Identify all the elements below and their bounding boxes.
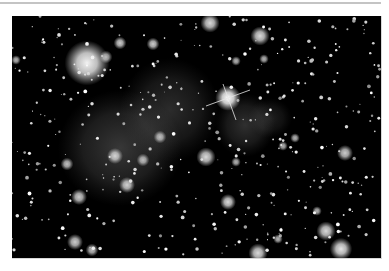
astronomical-image: [12, 16, 382, 259]
galaxy-cluster-canvas: [12, 16, 381, 258]
top-divider-line: [0, 2, 381, 4]
